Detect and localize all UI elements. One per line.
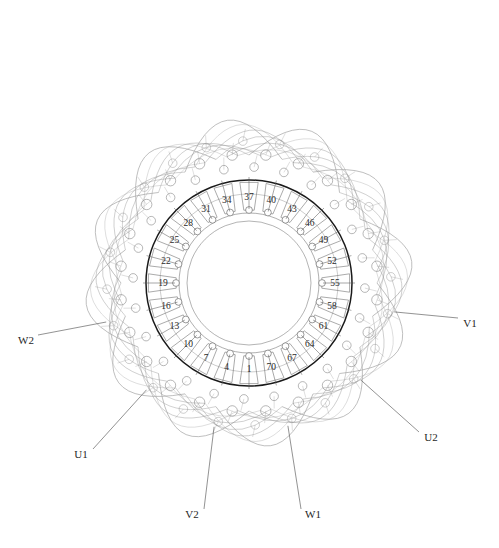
slot-label-28: 28 [183, 218, 193, 228]
slot-label-34: 34 [222, 195, 232, 205]
slot-label-43: 43 [287, 204, 297, 214]
slot-label-7: 7 [204, 353, 209, 363]
stator-winding-diagram: 1471013161922252831343740434649525558616… [0, 0, 499, 548]
slot-label-46: 46 [305, 218, 315, 228]
terminal-label-u2: U2 [424, 431, 437, 443]
slot-label-40: 40 [267, 195, 277, 205]
slot-label-group: 1471013161922252831343740434649525558616… [158, 192, 340, 374]
slot-leader-line-group [143, 177, 355, 389]
slot-label-10: 10 [183, 339, 193, 349]
slot-label-4: 4 [224, 362, 229, 372]
slot-label-67: 67 [287, 353, 297, 363]
diagram-root: 1471013161922252831343740434649525558616… [0, 0, 499, 548]
slot-label-1: 1 [247, 364, 252, 374]
slot-label-31: 31 [201, 204, 211, 214]
slot-label-61: 61 [319, 321, 329, 331]
terminal-label-v2: V2 [185, 508, 198, 520]
slot-label-58: 58 [327, 301, 337, 311]
conductor-circle-group [95, 129, 403, 437]
slot-label-37: 37 [244, 192, 254, 202]
slot-label-19: 19 [158, 278, 168, 288]
terminal-label-w1: W1 [305, 508, 321, 520]
end-winding-arc-group [86, 120, 412, 446]
terminal-label-u1: U1 [74, 448, 87, 460]
slot-label-13: 13 [170, 321, 180, 331]
slot-label-49: 49 [319, 235, 329, 245]
slot-label-64: 64 [305, 339, 315, 349]
slot-label-25: 25 [170, 235, 180, 245]
slot-label-22: 22 [161, 256, 171, 266]
slot-label-16: 16 [161, 301, 171, 311]
terminal-label-w2: W2 [18, 334, 34, 346]
slot-label-55: 55 [330, 278, 340, 288]
slot-label-70: 70 [267, 362, 277, 372]
terminal-label-v1: V1 [463, 317, 476, 329]
slot-label-52: 52 [327, 256, 337, 266]
